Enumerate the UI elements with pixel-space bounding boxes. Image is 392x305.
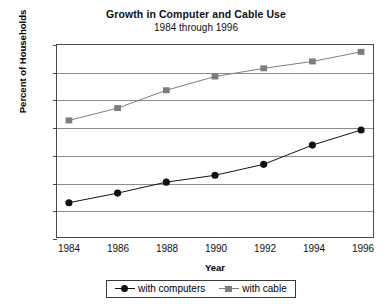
legend-label-with-cable: with cable [242, 283, 286, 294]
legend-marker-circle-icon [115, 284, 135, 294]
data-point [309, 58, 316, 64]
data-point [211, 172, 218, 179]
y-axis-label: Percent of Households [17, 0, 28, 132]
x-tick-label: 1990 [194, 243, 238, 254]
series-layer [57, 45, 373, 237]
x-axis-label: Year [56, 262, 374, 273]
data-point [260, 161, 267, 168]
x-tick-label: 1994 [292, 243, 336, 254]
data-point [66, 117, 73, 123]
data-point [309, 142, 316, 149]
data-point [357, 126, 364, 133]
legend-item-with-cable[interactable]: with cable [219, 283, 286, 294]
series-line-circle [69, 130, 361, 203]
data-point [358, 49, 365, 55]
legend-label-with-computers: with computers [138, 283, 205, 294]
chart-title: Growth in Computer and Cable Use [0, 8, 392, 20]
chart-subtitle: 1984 through 1996 [0, 22, 392, 33]
legend-marker-square-icon [219, 284, 239, 294]
data-point [114, 105, 121, 111]
chart-container: Growth in Computer and Cable Use 1984 th… [0, 0, 392, 305]
data-point [163, 179, 170, 186]
chart-legend: with computers with cable [106, 280, 296, 298]
x-tick-label: 1988 [145, 243, 189, 254]
x-tick-label: 1984 [47, 243, 91, 254]
x-tick-label: 1992 [243, 243, 287, 254]
data-point [212, 74, 219, 80]
data-point [114, 190, 121, 197]
legend-item-with-computers[interactable]: with computers [115, 283, 205, 294]
x-tick-label: 1986 [96, 243, 140, 254]
y-tick-mark [53, 239, 57, 240]
data-point [163, 87, 170, 93]
x-tick-label: 1996 [341, 243, 385, 254]
data-point [260, 65, 267, 71]
series-line-square [69, 52, 361, 121]
plot-area: 010203040506070 198419861988199019921994… [56, 44, 374, 238]
data-point [65, 199, 72, 206]
